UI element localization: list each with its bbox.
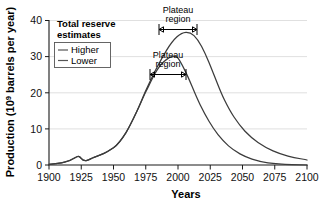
oil-production-chart: 40 30 20 10 0 1900 1925 1950 1975 2000 2…	[0, 0, 327, 208]
xtick-label-2050: 2050	[231, 171, 255, 183]
legend-title-line2: estimates	[57, 29, 101, 40]
annotation-plateau-lower: Plateau region	[150, 50, 186, 80]
xtick-label-1950: 1950	[102, 171, 126, 183]
ytick-label-10: 10	[30, 123, 42, 135]
y-axis-title: Production (109 barrels per year)	[4, 6, 16, 177]
y-axis-title-tail: barrels per year)	[4, 6, 16, 96]
xtick-label-1900: 1900	[37, 171, 61, 183]
chart-canvas: 40 30 20 10 0 1900 1925 1950 1975 2000 2…	[0, 0, 327, 208]
legend-label-higher: Higher	[71, 44, 99, 55]
y-tick-labels: 40 30 20 10 0	[30, 14, 42, 171]
ytick-label-40: 40	[30, 14, 42, 26]
annotation-plateau-upper: Plateau region	[159, 5, 197, 35]
legend-label-lower: Lower	[71, 55, 97, 66]
xtick-label-2000: 2000	[166, 171, 190, 183]
legend-title-line1: Total reserve	[57, 18, 115, 29]
xtick-label-2075: 2075	[263, 171, 287, 183]
legend: Total reserve estimates Higher Lower	[55, 18, 116, 68]
plateau-upper-label-line2: region	[165, 14, 190, 24]
ytick-label-20: 20	[30, 87, 42, 99]
ytick-label-30: 30	[30, 50, 42, 62]
xtick-label-1925: 1925	[70, 171, 94, 183]
xtick-label-2025: 2025	[199, 171, 223, 183]
x-axis-title: Years	[171, 188, 200, 200]
plateau-lower-label-line2: region	[155, 59, 180, 69]
x-tick-labels: 1900 1925 1950 1975 2000 2025 2050 2075 …	[37, 171, 319, 183]
ytick-label-0: 0	[36, 159, 42, 171]
y-axis-title-lead: Production (10	[4, 100, 16, 177]
xtick-label-1975: 1975	[134, 171, 158, 183]
xtick-label-2100: 2100	[295, 171, 319, 183]
